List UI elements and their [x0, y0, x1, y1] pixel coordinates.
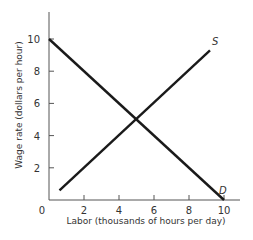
- y-tick-label: 10: [27, 34, 40, 45]
- x-axis-label: Labor (thousands of hours per day): [66, 216, 225, 226]
- y-tick-label: 6: [34, 98, 40, 109]
- x-tick-label: 8: [186, 205, 192, 216]
- x-tick-label: 2: [81, 205, 87, 216]
- x-tick-label: 4: [116, 205, 122, 216]
- y-axis-label: Wage rate (dollars per hour): [14, 41, 24, 169]
- x-tick-label: 10: [218, 205, 231, 216]
- y-tick-label: 2: [34, 163, 40, 174]
- y-tick-label: 4: [34, 131, 40, 142]
- supply-curve: [60, 50, 211, 190]
- labor-market-chart: 2468102468100Labor (thousands of hours p…: [0, 0, 253, 240]
- origin-label: 0: [39, 205, 45, 216]
- y-tick-label: 8: [34, 66, 40, 77]
- supply-curve-label: S: [212, 36, 219, 47]
- demand-curve-label: D: [219, 185, 227, 196]
- x-tick-label: 6: [151, 205, 157, 216]
